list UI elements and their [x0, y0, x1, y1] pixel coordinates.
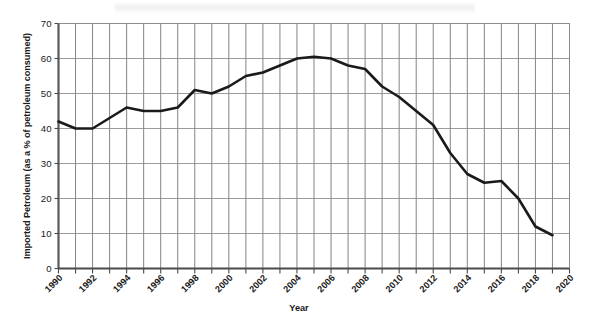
svg-text:2004: 2004 [281, 272, 303, 294]
svg-text:50: 50 [41, 88, 52, 99]
chart-svg: 010203040506070 199019921994199619982000… [0, 0, 598, 327]
svg-text:2016: 2016 [486, 273, 508, 295]
svg-text:2006: 2006 [315, 273, 337, 295]
vertical-gridlines [59, 24, 570, 269]
svg-text:2014: 2014 [452, 272, 474, 294]
x-axis-title: Year [0, 303, 598, 313]
y-axis-ticks: 010203040506070 [41, 18, 59, 274]
data-line-series-1 [59, 57, 553, 236]
svg-text:2010: 2010 [384, 273, 406, 295]
svg-text:1994: 1994 [111, 272, 133, 294]
svg-text:1996: 1996 [145, 273, 167, 295]
svg-text:0: 0 [46, 263, 51, 274]
svg-text:10: 10 [41, 228, 52, 239]
svg-text:1990: 1990 [43, 273, 65, 295]
svg-text:40: 40 [41, 123, 52, 134]
chart-figure: Imported Petroleum (as a % of petroleum … [0, 0, 598, 327]
svg-text:20: 20 [41, 193, 52, 204]
svg-text:2020: 2020 [554, 273, 576, 295]
svg-text:1992: 1992 [77, 273, 99, 295]
svg-text:2002: 2002 [247, 273, 269, 295]
svg-text:70: 70 [41, 18, 52, 29]
svg-text:60: 60 [41, 53, 52, 64]
svg-text:30: 30 [41, 158, 52, 169]
svg-text:2000: 2000 [213, 273, 235, 295]
svg-text:1998: 1998 [179, 273, 201, 295]
svg-text:2018: 2018 [520, 273, 542, 295]
svg-text:2012: 2012 [418, 273, 440, 295]
x-axis-ticks: 1990199219941996199820002002200420062008… [43, 269, 576, 295]
svg-text:2008: 2008 [349, 273, 371, 295]
